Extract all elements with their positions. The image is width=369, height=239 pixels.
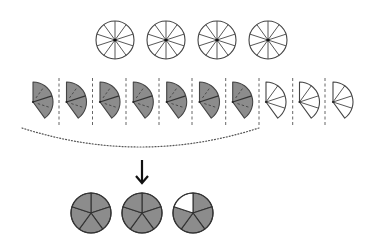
fraction-diagram [0, 0, 369, 239]
wedge-shaded [166, 82, 187, 118]
wedge-shaded [132, 82, 153, 118]
circle-tenths [147, 21, 185, 59]
wedge-shaded [32, 82, 53, 118]
wedge-unshaded [332, 82, 353, 118]
wedge-shaded [65, 82, 86, 118]
wedge-unshaded [298, 82, 319, 118]
circle-tenths [198, 21, 236, 59]
wedge-shaded [198, 82, 219, 118]
circle-tenths [249, 21, 287, 59]
top-circles-tenths [96, 21, 287, 59]
result-circles-fifths [71, 193, 213, 233]
circle-tenths [96, 21, 134, 59]
down-arrow-icon [136, 160, 148, 183]
result-circle-fifths [71, 193, 111, 233]
result-circle-fifths [173, 193, 213, 233]
wedge-unshaded [265, 82, 286, 118]
wedge-shaded [232, 82, 253, 118]
result-circle-fifths [122, 193, 162, 233]
diagram-canvas [0, 0, 369, 239]
grouping-arc [22, 128, 259, 147]
wedge-shaded [99, 82, 120, 118]
